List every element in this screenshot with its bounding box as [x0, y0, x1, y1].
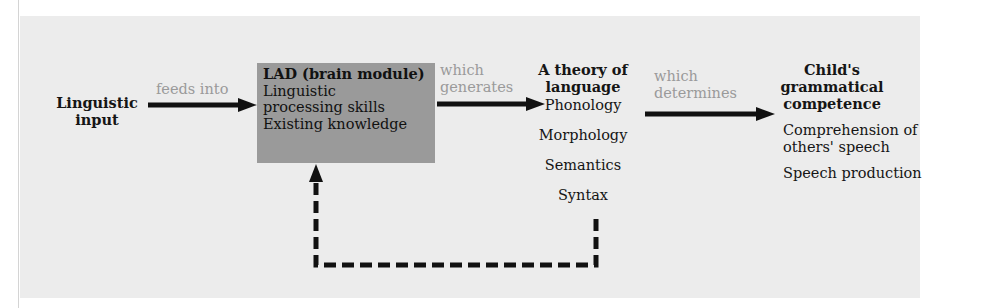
arrows-layer	[0, 0, 993, 308]
arrow-which-generates	[437, 97, 545, 111]
arrow-feedback-dashed	[309, 164, 596, 265]
arrow-feeds-into	[148, 98, 257, 112]
arrow-which-determines	[645, 107, 775, 121]
